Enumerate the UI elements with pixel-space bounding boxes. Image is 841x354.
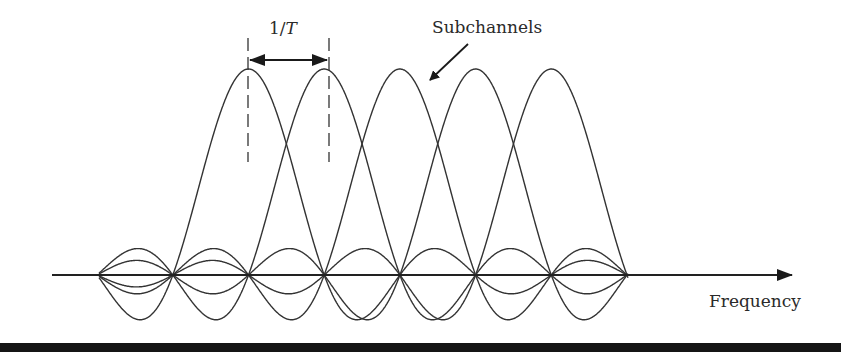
subchannels-label: Subchannels bbox=[432, 17, 542, 37]
subcarrier-spacing-label: 1/T bbox=[269, 18, 297, 38]
spacing-markers bbox=[248, 38, 329, 162]
subchannels-pointer-arrow bbox=[430, 44, 468, 80]
subchannel-curve-2 bbox=[99, 69, 628, 320]
frequency-axis-label: Frequency bbox=[709, 291, 801, 311]
subchannel-curves bbox=[99, 69, 628, 320]
spacing-numerator: 1/ bbox=[269, 18, 286, 38]
spacing-variable: T bbox=[286, 18, 297, 38]
bottom-border-bar bbox=[0, 343, 841, 352]
